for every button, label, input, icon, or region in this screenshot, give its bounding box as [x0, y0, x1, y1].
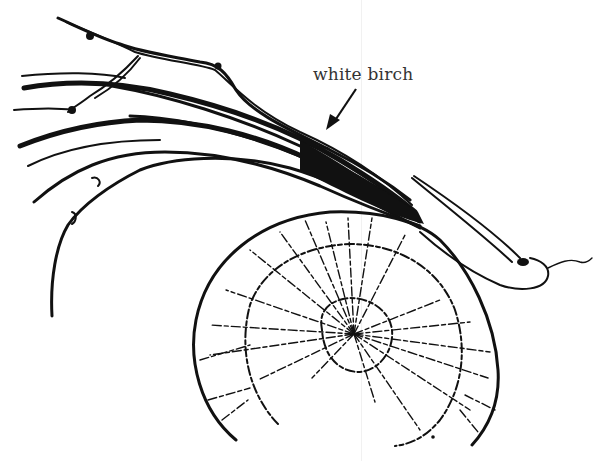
birch-branch-bundle — [14, 18, 424, 316]
label-arrow — [326, 89, 356, 130]
needle — [412, 176, 592, 289]
coiled-basket — [194, 212, 499, 446]
birch-coil-drawing — [0, 0, 602, 461]
illustration-canvas: white birch — [0, 0, 602, 461]
white-birch-label: white birch — [313, 64, 413, 84]
